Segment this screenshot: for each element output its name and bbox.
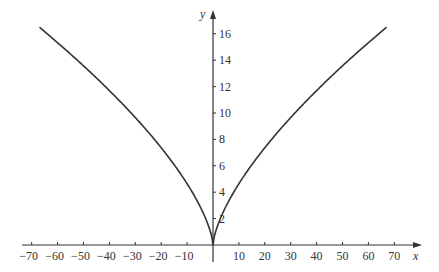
- y-tick-label: 8: [219, 132, 225, 146]
- x-tick-label: −70: [19, 249, 38, 263]
- x-tick-label: −40: [97, 249, 116, 263]
- y-axis-label: y: [199, 7, 206, 21]
- x-axis-arrow-icon: [413, 242, 422, 248]
- y-tick-label: 14: [219, 53, 231, 67]
- x-tick-label: 20: [259, 249, 271, 263]
- y-axis-arrow-icon: [210, 10, 216, 19]
- y-tick-label: 4: [219, 185, 225, 199]
- x-tick-label: −50: [71, 249, 90, 263]
- x-tick-label: 30: [285, 249, 297, 263]
- y-tick-label: 10: [219, 106, 231, 120]
- y-tick-label: 16: [219, 27, 231, 41]
- x-tick-label: 50: [337, 249, 349, 263]
- x-tick-label: 70: [388, 249, 400, 263]
- y-tick-label: 12: [219, 80, 231, 94]
- x-tick-label: −20: [149, 249, 168, 263]
- x-tick-label: 60: [362, 249, 374, 263]
- chart: −70−60−50−40−30−20−101020304050607024681…: [0, 0, 439, 272]
- x-tick-label: 40: [311, 249, 323, 263]
- x-tick-label: 10: [233, 249, 245, 263]
- y-tick-label: 6: [219, 159, 225, 173]
- x-tick-label: −10: [175, 249, 194, 263]
- x-axis-label: x: [412, 249, 419, 263]
- x-tick-label: −30: [123, 249, 142, 263]
- x-tick-label: −60: [45, 249, 64, 263]
